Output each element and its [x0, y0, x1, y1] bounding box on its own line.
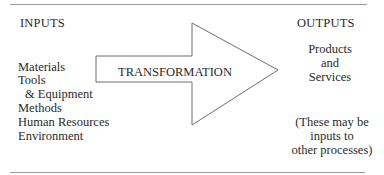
outputs-heading: OUTPUTS	[297, 17, 355, 30]
output-line-and: and	[290, 57, 370, 70]
input-item-tools: Tools	[18, 74, 46, 87]
input-item-equipment: & Equipment	[25, 88, 93, 101]
input-item-methods: Methods	[18, 102, 62, 115]
note-line-2: inputs to	[284, 130, 380, 143]
output-line-services: Services	[290, 71, 370, 84]
output-line-products: Products	[290, 43, 370, 56]
outputs-note: (These may be inputs to other processes)	[284, 116, 380, 157]
outputs-block: Products and Services	[290, 43, 370, 84]
bottom-rule	[10, 172, 365, 173]
input-item-human-resources: Human Resources	[18, 116, 109, 129]
inputs-heading: INPUTS	[20, 17, 65, 30]
input-item-environment: Environment	[18, 130, 83, 143]
transformation-label: TRANSFORMATION	[118, 66, 232, 79]
note-line-1: (These may be	[284, 116, 380, 129]
note-line-3: other processes)	[284, 144, 380, 157]
